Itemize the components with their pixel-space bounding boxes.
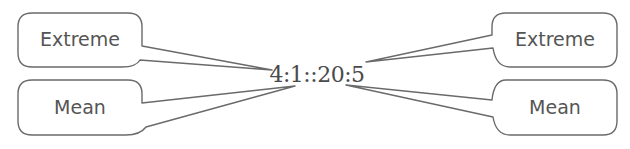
bubble-label-bottom-right: Mean — [495, 97, 615, 117]
bubble-label-bottom-left: Mean — [20, 97, 140, 117]
bubble-label-top-left: Extreme — [20, 29, 140, 49]
ratio-proportion-label: 4:1::20:5 — [262, 62, 372, 87]
bubble-label-top-right: Extreme — [495, 29, 615, 49]
